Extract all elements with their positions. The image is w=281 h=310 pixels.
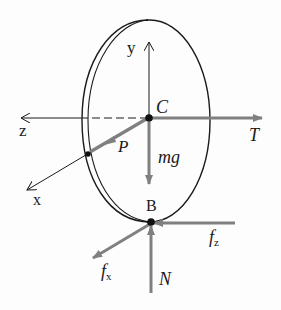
vector-p-label: P [118,138,128,155]
fz-force-label: fz [209,228,219,248]
t-force-label: T [249,126,259,144]
point-b-label: B [146,198,157,214]
n-force-label: N [159,270,171,288]
diagram-graphics [0,0,281,310]
fx-subscript: x [106,270,112,282]
fx-force-label: fx [101,262,112,282]
fz-subscript: z [214,236,219,248]
point-c-dot [145,114,153,122]
x-axis-label: x [33,192,41,208]
mg-force-label: mg [158,148,180,166]
fx-force-arrow [93,224,150,258]
point-b-dot [147,218,155,226]
z-axis-label: z [19,122,27,139]
free-body-diagram: y z x C P B T mg N fz fx [0,0,281,310]
point-c-label: C [156,98,168,116]
rim-point-dot [85,151,91,157]
y-axis-label: y [127,39,136,56]
